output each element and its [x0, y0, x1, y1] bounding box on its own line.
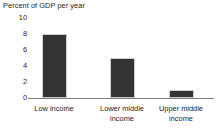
bar [110, 58, 135, 98]
x-axis-category-label-line: income [91, 114, 153, 124]
x-axis-category-label-line: Lower middle [91, 104, 153, 114]
x-axis-category-label: Lower middleincome [91, 104, 153, 123]
bars-layer: Low incomeLower middleincomeUpper middle… [0, 0, 216, 137]
x-axis-category-label: Low income [23, 104, 85, 114]
x-axis-category-label-line: Low income [23, 104, 85, 114]
bar [42, 34, 67, 98]
x-axis-category-label: Upper middleincome [151, 104, 211, 123]
x-axis-category-label-line: Upper middle [151, 104, 211, 114]
plot-area: 1086420 Low incomeLower middleincomeUppe… [0, 0, 216, 137]
bar [169, 90, 194, 98]
bar-chart: Percent of GDP per year 1086420 Low inco… [0, 0, 216, 137]
x-axis-category-label-line: income [151, 114, 211, 124]
